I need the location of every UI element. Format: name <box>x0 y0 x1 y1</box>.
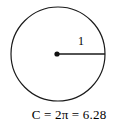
radius-label: 1 <box>74 35 88 48</box>
center-point-dot <box>54 51 59 56</box>
circumference-caption: C = 2π = 6.28 <box>0 107 138 122</box>
figure-container: 1 C = 2π = 6.28 <box>0 0 138 127</box>
